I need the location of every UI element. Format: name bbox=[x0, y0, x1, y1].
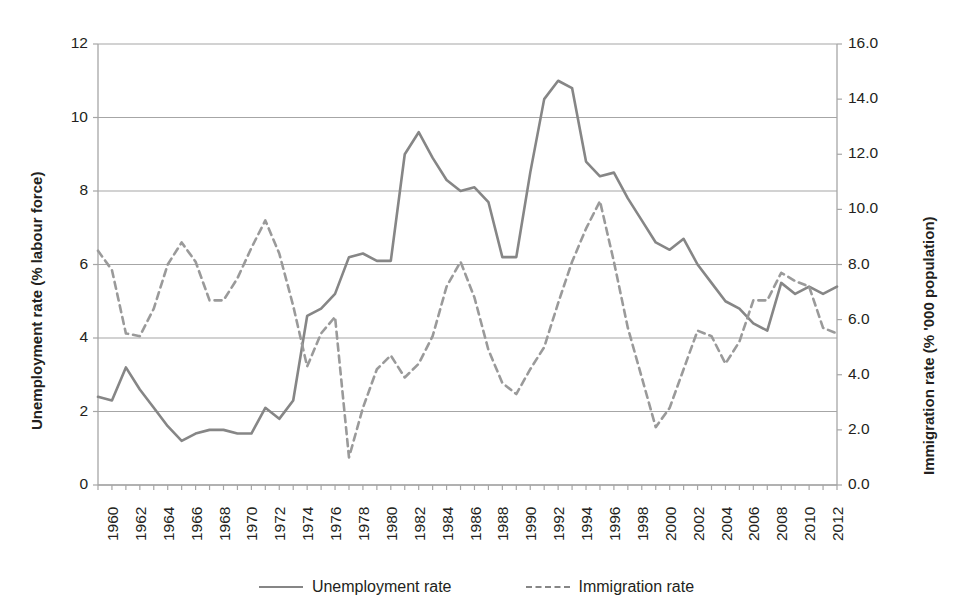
legend-swatch-dashed-icon bbox=[526, 586, 570, 588]
series-line-2 bbox=[98, 201, 837, 457]
legend-label: Unemployment rate bbox=[312, 578, 452, 596]
legend-swatch-solid-icon bbox=[259, 586, 303, 588]
series-line-1 bbox=[98, 81, 837, 441]
legend-label: Immigration rate bbox=[579, 578, 695, 596]
chart-container: Unemployment rate (% labour force) Immig… bbox=[0, 0, 953, 615]
chart-legend: Unemployment rateImmigration rate bbox=[0, 572, 953, 602]
legend-item-1[interactable]: Unemployment rate bbox=[259, 578, 452, 596]
plot-area bbox=[0, 0, 953, 615]
legend-item-2[interactable]: Immigration rate bbox=[526, 578, 695, 596]
